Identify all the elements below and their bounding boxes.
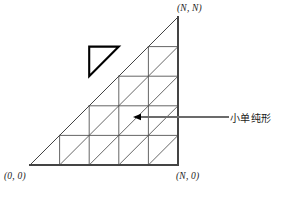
grid-line-diagonal: [119, 76, 149, 106]
annotation-label-small-simplex: 小单纯形: [230, 110, 272, 125]
grid-line-diagonal: [89, 106, 119, 136]
grid-line-diagonal: [148, 47, 178, 77]
highlighted-simplex: [89, 47, 119, 77]
corner-label-top-right: (N, N): [177, 3, 202, 13]
grid-line-diagonal: [148, 135, 178, 165]
corner-label-bottom-right: (N, 0): [176, 171, 199, 181]
corner-label-bottom-left: (0, 0): [4, 171, 26, 181]
outline-hypotenuse: [30, 17, 178, 165]
annotation-leader-line: [133, 114, 228, 120]
leader-arrowhead: [133, 114, 141, 120]
grid-line-diagonal: [148, 106, 178, 136]
small-simplex-triangle: [89, 47, 119, 77]
grid-line-diagonal: [119, 135, 149, 165]
triangle-outline: [30, 17, 178, 165]
figure-container: (N, N) (0, 0) (N, 0) 小单纯形: [0, 0, 282, 200]
grid-line-diagonal: [148, 76, 178, 106]
grid-line-diagonal: [60, 135, 90, 165]
grid-line-diagonal: [119, 106, 149, 136]
lattice-diagram: [0, 0, 282, 200]
grid-line-diagonal: [89, 135, 119, 165]
